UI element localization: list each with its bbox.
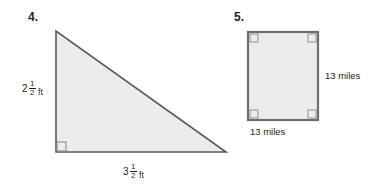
triangle-figure bbox=[50, 25, 235, 160]
triangle-base-label: 3 1 2 ft bbox=[123, 163, 144, 181]
whole-part: 2 bbox=[22, 84, 29, 94]
unit-label: ft bbox=[137, 171, 144, 180]
square-shape bbox=[246, 30, 320, 122]
mixed-number-three-and-a-half: 3 1 2 ft bbox=[123, 163, 144, 181]
square-figure bbox=[246, 30, 320, 122]
square-bottom-side-text: 13 miles bbox=[250, 126, 285, 137]
unit-label: ft bbox=[36, 88, 43, 97]
square-right-side-text: 13 miles bbox=[325, 70, 360, 81]
right-triangle-shape bbox=[50, 25, 235, 160]
square-right-side-label: 13 miles bbox=[325, 71, 360, 81]
square-bottom-side-label: 13 miles bbox=[250, 127, 285, 137]
mixed-number-two-and-a-half: 2 1 2 ft bbox=[22, 80, 43, 98]
square-polygon bbox=[248, 32, 318, 120]
problem-number-5: 5. bbox=[234, 11, 244, 23]
problem-number-4: 4. bbox=[28, 11, 38, 23]
whole-part: 3 bbox=[123, 167, 130, 177]
numerator: 1 bbox=[29, 80, 35, 88]
numerator: 1 bbox=[130, 163, 136, 171]
worksheet-page: 4. 2 1 2 ft 3 1 2 ft 5. bbox=[0, 0, 374, 189]
triangle-polygon bbox=[56, 31, 226, 152]
triangle-height-label: 2 1 2 ft bbox=[22, 80, 43, 98]
